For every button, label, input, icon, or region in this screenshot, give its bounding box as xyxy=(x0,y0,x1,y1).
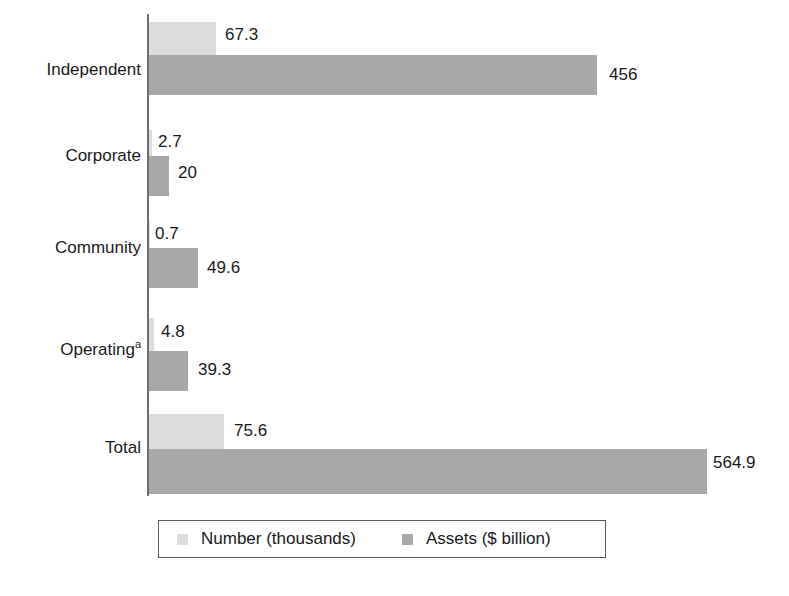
legend-entry-number: Number (thousands) xyxy=(177,529,356,549)
chart-legend: Number (thousands) Assets ($ billion) xyxy=(158,520,606,558)
bar-chart: Independent 67.3 456 Corporate 2.7 20 Co… xyxy=(0,0,789,596)
bar-value-assets-total: 564.9 xyxy=(713,453,756,473)
category-label-independent: Independent xyxy=(0,60,141,80)
legend-entry-assets: Assets ($ billion) xyxy=(402,529,551,549)
bar-assets-community xyxy=(149,248,198,288)
bar-value-number-independent: 67.3 xyxy=(225,25,258,45)
bar-assets-corporate xyxy=(149,156,169,196)
bar-value-number-corporate: 2.7 xyxy=(158,132,182,152)
bar-value-assets-community: 49.6 xyxy=(207,258,240,278)
bar-number-total xyxy=(149,414,224,449)
bar-number-corporate xyxy=(149,130,152,156)
bar-assets-independent xyxy=(149,55,597,95)
bar-value-assets-corporate: 20 xyxy=(178,163,197,183)
legend-swatch-assets-icon xyxy=(402,534,413,545)
bar-assets-total xyxy=(149,449,707,494)
bar-value-assets-independent: 456 xyxy=(609,65,637,85)
bar-value-number-community: 0.7 xyxy=(155,224,179,244)
bar-assets-operating xyxy=(149,351,188,391)
category-label-community: Community xyxy=(0,238,141,258)
bar-value-assets-operating: 39.3 xyxy=(198,360,231,380)
category-label-total: Total xyxy=(0,438,141,458)
legend-label-number: Number (thousands) xyxy=(201,529,356,549)
category-label-corporate: Corporate xyxy=(0,146,141,166)
bar-number-operating xyxy=(149,318,154,351)
bar-value-number-total: 75.6 xyxy=(234,421,267,441)
category-label-operating: Operatinga xyxy=(0,340,141,360)
bar-number-community xyxy=(149,222,150,248)
plot-area: Independent 67.3 456 Corporate 2.7 20 Co… xyxy=(0,0,789,500)
legend-swatch-number-icon xyxy=(177,534,188,545)
footnote-marker-a: a xyxy=(135,338,141,350)
bar-number-independent xyxy=(149,22,216,55)
bar-value-number-operating: 4.8 xyxy=(161,322,185,342)
legend-label-assets: Assets ($ billion) xyxy=(426,529,551,549)
